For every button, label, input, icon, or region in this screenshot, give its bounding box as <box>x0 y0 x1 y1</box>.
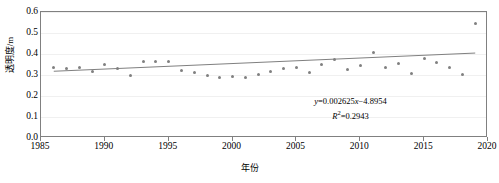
x-axis-tick-labels: 19851990199520002005201020152020 <box>0 137 499 157</box>
y-tick-label: 0.1 <box>16 112 38 122</box>
x-tick-label: 2015 <box>403 141 443 152</box>
data-point <box>167 60 170 63</box>
data-point <box>359 64 362 67</box>
r-squared-value: =0.2943 <box>341 111 369 121</box>
x-tick-label: 2000 <box>212 141 252 152</box>
regression-annotation: y=0.002625x−4.8954 R2=0.2943 <box>278 96 423 122</box>
y-tick-label: 0.2 <box>16 91 38 101</box>
x-tick-label: 2010 <box>339 141 379 152</box>
data-point <box>372 51 375 54</box>
data-point <box>295 66 298 69</box>
data-point <box>423 57 426 60</box>
y-tick-label: 0.4 <box>16 49 38 59</box>
scatter-chart-figure: 透明度/m 0.0 0.1 0.2 0.3 0.4 0.5 0.6 198519… <box>0 0 499 183</box>
y-tick-label: 0.6 <box>16 7 38 17</box>
equation-slope: =0.002625 <box>318 96 355 106</box>
x-tick-label: 1995 <box>148 141 188 152</box>
data-point <box>142 60 145 63</box>
data-point <box>193 71 196 74</box>
x-tick-label: 2020 <box>467 141 499 152</box>
data-point <box>244 76 247 79</box>
y-tick-label: 0.5 <box>16 28 38 38</box>
data-point <box>257 73 260 76</box>
data-point <box>116 67 119 70</box>
x-axis-title: 年份 <box>0 163 499 174</box>
regression-equation: y=0.002625x−4.8954 <box>278 96 423 107</box>
y-tick-label: 0.3 <box>16 70 38 80</box>
x-tick-label: 1990 <box>84 141 124 152</box>
data-point <box>206 74 209 77</box>
data-point <box>78 66 81 69</box>
equation-intercept: −4.8954 <box>359 96 387 106</box>
data-point <box>410 72 413 75</box>
x-tick-label: 2005 <box>275 141 315 152</box>
data-point <box>231 75 234 78</box>
r-squared-label: R2=0.2943 <box>278 107 423 122</box>
data-point <box>91 70 94 73</box>
x-tick-label: 1985 <box>20 141 60 152</box>
data-point <box>180 69 183 72</box>
data-point <box>65 67 68 70</box>
